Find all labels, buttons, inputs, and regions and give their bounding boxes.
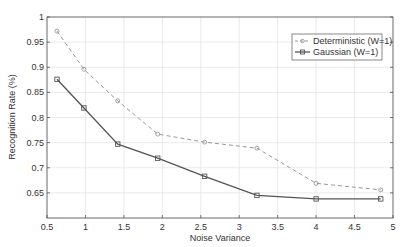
legend-label: Deterministic (W=1) (313, 36, 392, 46)
x-tick-label: 2 (160, 222, 165, 232)
y-axis-label: Recognition Rate (%) (7, 74, 17, 160)
series-line-2 (57, 79, 381, 199)
x-tick-label: 3 (237, 222, 242, 232)
line-chart: 0.511.522.533.544.55 0.650.70.750.80.850… (0, 0, 412, 247)
x-tick-label: 2.5 (195, 222, 208, 232)
x-tick-label: 1.5 (118, 222, 131, 232)
legend-label: Gaussian (W=1) (313, 47, 378, 57)
y-tick-label: 1 (39, 12, 44, 22)
y-tick-label: 0.85 (26, 87, 44, 97)
x-tick-label: 5 (390, 222, 395, 232)
x-tick-label: 1 (83, 222, 88, 232)
y-tick-label: 0.9 (31, 62, 44, 72)
data-point-circle (156, 132, 160, 136)
x-axis-ticks: 0.511.522.533.544.55 (41, 215, 396, 232)
x-tick-label: 4.5 (348, 222, 361, 232)
y-tick-label: 0.65 (26, 188, 44, 198)
x-axis-label: Noise Variance (190, 233, 250, 243)
y-tick-label: 0.75 (26, 138, 44, 148)
y-tick-label: 0.8 (31, 113, 44, 123)
y-tick-label: 0.95 (26, 37, 44, 47)
legend: Deterministic (W=1)Gaussian (W=1) (292, 34, 392, 60)
y-tick-label: 0.7 (31, 163, 44, 173)
x-tick-label: 4 (314, 222, 319, 232)
x-tick-label: 0.5 (41, 222, 54, 232)
x-tick-label: 3.5 (271, 222, 284, 232)
